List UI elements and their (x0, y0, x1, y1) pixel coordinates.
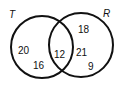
t-only-value-2: 16 (33, 60, 45, 71)
venn-diagram: T R 20 16 12 18 21 9 (0, 0, 118, 85)
r-only-value-1: 18 (78, 24, 90, 35)
r-only-value-2: 21 (76, 47, 88, 58)
set-t-label: T (9, 9, 16, 20)
intersection-value: 12 (54, 49, 66, 60)
set-r-circle (49, 13, 113, 77)
t-only-value-1: 20 (18, 45, 30, 56)
set-r-label: R (103, 8, 110, 19)
r-only-value-3: 9 (88, 61, 94, 72)
